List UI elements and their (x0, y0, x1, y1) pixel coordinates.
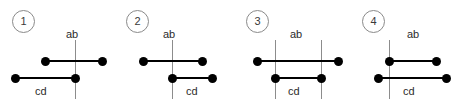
panel-number-badge: 4 (362, 10, 385, 33)
label-ab: ab (407, 28, 419, 40)
endpoint-dot (432, 57, 441, 66)
panel-4: 4abcd (0, 0, 458, 110)
endpoint-dot (385, 57, 394, 66)
interval-segment-cd (378, 77, 446, 79)
endpoint-dot (442, 74, 451, 83)
interval-configurations-figure: 1abcd2abcd3abcd4abcd (0, 0, 458, 110)
vertical-line (389, 40, 390, 99)
interval-segment-ab (389, 60, 436, 62)
endpoint-dot (374, 74, 383, 83)
label-cd: cd (403, 85, 415, 97)
